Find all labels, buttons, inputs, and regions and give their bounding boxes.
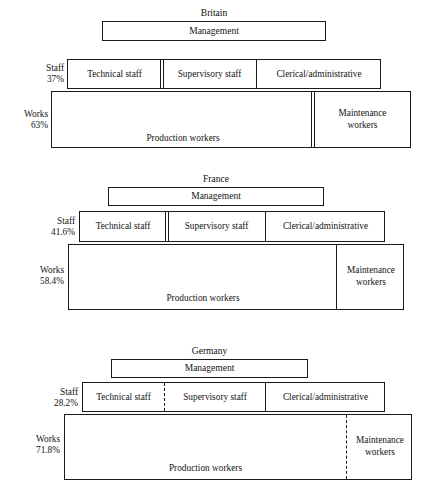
works-word: Works bbox=[8, 434, 60, 445]
cell-supervisory-staff: Supervisory staff bbox=[163, 60, 256, 88]
staff-percent: 37% bbox=[16, 74, 64, 85]
maintenance-line1: Maintenance bbox=[347, 265, 395, 275]
label-maintenance-workers: Maintenance workers bbox=[349, 435, 411, 458]
staff-row-france: Technical staff Supervisory staff Cleric… bbox=[79, 211, 385, 242]
management-box-britain: Management bbox=[102, 21, 326, 41]
works-word: Works bbox=[10, 265, 64, 276]
label-production-workers: Production workers bbox=[65, 463, 346, 474]
cell-label: Clerical/administrative bbox=[276, 69, 361, 80]
works-row-france: Production workers Maintenance workers bbox=[68, 244, 404, 310]
works-word: Works bbox=[2, 109, 48, 120]
management-box-france: Management bbox=[108, 187, 324, 206]
staff-word: Staff bbox=[22, 216, 75, 227]
cell-supervisory-staff: Supervisory staff bbox=[165, 383, 265, 411]
cell-label: Supervisory staff bbox=[183, 392, 247, 403]
label-maintenance-workers: Maintenance workers bbox=[316, 108, 409, 131]
maintenance-line1: Maintenance bbox=[338, 108, 386, 118]
staff-annotation-britain: Staff 37% bbox=[16, 63, 64, 85]
cell-label: Clerical/administrative bbox=[283, 221, 368, 232]
chart-title-france: France bbox=[108, 174, 324, 185]
cell-clerical-administrative: Clerical/administrative bbox=[266, 212, 385, 241]
cell-clerical-administrative: Clerical/administrative bbox=[257, 60, 381, 88]
management-label: Management bbox=[191, 191, 241, 202]
chart-title-britain: Britain bbox=[102, 8, 326, 19]
cell-supervisory-staff: Supervisory staff bbox=[168, 212, 265, 241]
staff-annotation-germany: Staff 28.2% bbox=[22, 387, 78, 409]
management-box-germany: Management bbox=[111, 359, 308, 378]
works-annotation-britain: Works 63% bbox=[2, 109, 48, 131]
works-percent: 63% bbox=[2, 120, 48, 131]
works-row-germany: Production workers Maintenance workers bbox=[64, 414, 412, 480]
label-production-workers: Production workers bbox=[69, 293, 337, 304]
management-label: Management bbox=[185, 363, 235, 374]
staff-percent: 28.2% bbox=[22, 398, 78, 409]
cell-label: Technical staff bbox=[87, 69, 142, 80]
cell-technical-staff: Technical staff bbox=[83, 383, 164, 411]
works-annotation-france: Works 58.4% bbox=[10, 265, 64, 287]
management-label: Management bbox=[189, 26, 239, 37]
divider-production-maintenance bbox=[346, 415, 347, 479]
maintenance-line2: workers bbox=[356, 277, 386, 287]
cell-label: Clerical/administrative bbox=[283, 392, 368, 403]
works-percent: 71.8% bbox=[8, 445, 60, 456]
maintenance-line1: Maintenance bbox=[356, 435, 404, 445]
works-percent: 58.4% bbox=[10, 276, 64, 287]
cell-label: Supervisory staff bbox=[185, 221, 249, 232]
cell-label: Technical staff bbox=[96, 392, 151, 403]
cell-clerical-administrative: Clerical/administrative bbox=[266, 383, 385, 411]
works-row-britain: Production workers Maintenance workers bbox=[51, 91, 411, 148]
chart-title-germany: Germany bbox=[111, 346, 308, 357]
divider-production-maintenance bbox=[311, 92, 315, 147]
staff-annotation-france: Staff 41.6% bbox=[22, 216, 75, 238]
staff-row-britain: Technical staff Supervisory staff Cleric… bbox=[67, 59, 381, 89]
works-annotation-germany: Works 71.8% bbox=[8, 434, 60, 456]
staff-word: Staff bbox=[16, 63, 64, 74]
divider-production-maintenance bbox=[336, 245, 337, 309]
maintenance-line2: workers bbox=[348, 120, 378, 130]
maintenance-line2: workers bbox=[365, 447, 395, 457]
cell-technical-staff: Technical staff bbox=[80, 212, 166, 241]
staff-row-germany: Technical staff Supervisory staff Cleric… bbox=[82, 382, 385, 412]
cell-label: Technical staff bbox=[96, 221, 151, 232]
label-maintenance-workers: Maintenance workers bbox=[339, 265, 403, 288]
staff-word: Staff bbox=[22, 387, 78, 398]
staff-percent: 41.6% bbox=[22, 227, 75, 238]
cell-label: Supervisory staff bbox=[178, 69, 242, 80]
label-production-workers: Production workers bbox=[52, 133, 314, 144]
cell-technical-staff: Technical staff bbox=[68, 60, 161, 88]
